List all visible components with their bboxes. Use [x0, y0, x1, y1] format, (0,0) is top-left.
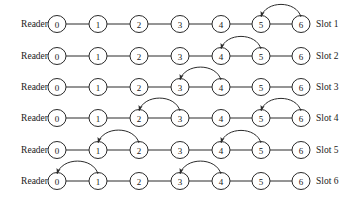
node-2[interactable]: 2: [130, 48, 148, 65]
node-label: 0: [55, 52, 60, 62]
node-1[interactable]: 1: [89, 142, 107, 159]
node-2[interactable]: 2: [130, 173, 148, 190]
node-label: 1: [96, 114, 101, 124]
reader-label: Reader: [21, 82, 49, 92]
node-0[interactable]: 0: [48, 173, 66, 190]
node-1[interactable]: 1: [89, 16, 107, 33]
node-0[interactable]: 0: [48, 16, 66, 33]
node-5[interactable]: 5: [252, 173, 270, 190]
slot-label: Slot 2: [316, 51, 339, 61]
backward-arc: [55, 161, 98, 174]
reader-label: Reader: [21, 19, 49, 29]
node-1[interactable]: 1: [89, 79, 107, 96]
slot-row: 0123456ReaderSlot 5: [21, 130, 339, 158]
node-3[interactable]: 3: [171, 48, 189, 65]
node-5[interactable]: 5: [252, 79, 270, 96]
node-3[interactable]: 3: [171, 142, 189, 159]
arc-path: [98, 130, 139, 143]
node-5[interactable]: 5: [252, 110, 270, 127]
node-0[interactable]: 0: [48, 110, 66, 127]
node-4[interactable]: 4: [212, 79, 230, 96]
node-3[interactable]: 3: [171, 173, 189, 190]
node-5[interactable]: 5: [252, 142, 270, 159]
node-5[interactable]: 5: [252, 16, 270, 33]
node-1[interactable]: 1: [89, 48, 107, 65]
node-0[interactable]: 0: [48, 79, 66, 96]
backward-arc: [178, 67, 221, 80]
node-label: 6: [299, 52, 304, 62]
node-label: 5: [259, 114, 264, 124]
node-label: 3: [178, 146, 183, 156]
node-label: 4: [219, 114, 224, 124]
node-label: 6: [299, 83, 304, 93]
slot-row: 0123456ReaderSlot 1: [21, 4, 339, 32]
node-label: 4: [219, 83, 224, 93]
node-4[interactable]: 4: [212, 110, 230, 127]
node-label: 0: [55, 20, 60, 30]
node-0[interactable]: 0: [48, 48, 66, 65]
node-label: 4: [219, 20, 224, 30]
backward-arc: [96, 130, 139, 143]
node-6[interactable]: 6: [292, 16, 310, 33]
slot-row: 0123456ReaderSlot 3: [21, 67, 339, 95]
node-label: 2: [137, 52, 142, 62]
arc-path: [139, 98, 180, 111]
slot-row: 0123456ReaderSlot 2: [21, 36, 339, 64]
node-label: 5: [259, 20, 264, 30]
node-4[interactable]: 4: [212, 16, 230, 33]
node-6[interactable]: 6: [292, 142, 310, 159]
node-label: 6: [299, 114, 304, 124]
node-label: 6: [299, 146, 304, 156]
node-2[interactable]: 2: [130, 79, 148, 96]
slot-label: Slot 1: [316, 19, 339, 29]
node-label: 4: [219, 52, 224, 62]
node-label: 6: [299, 177, 304, 187]
node-label: 2: [137, 114, 142, 124]
backward-arc: [259, 4, 301, 17]
node-2[interactable]: 2: [130, 142, 148, 159]
node-label: 0: [55, 146, 60, 156]
backward-arc: [259, 98, 301, 111]
node-label: 1: [96, 52, 101, 62]
node-label: 4: [219, 146, 224, 156]
node-3[interactable]: 3: [171, 16, 189, 33]
node-4[interactable]: 4: [212, 173, 230, 190]
node-6[interactable]: 6: [292, 173, 310, 190]
node-label: 5: [259, 52, 264, 62]
slot-diagram-container: 0123456ReaderSlot 10123456ReaderSlot 201…: [0, 0, 354, 209]
node-2[interactable]: 2: [130, 110, 148, 127]
node-label: 4: [219, 177, 224, 187]
slot-label: Slot 4: [316, 113, 339, 123]
reader-label: Reader: [21, 113, 49, 123]
node-label: 3: [178, 20, 183, 30]
node-label: 2: [137, 146, 142, 156]
arc-path: [221, 36, 261, 49]
arc-path: [57, 161, 98, 174]
backward-arc: [137, 98, 180, 111]
node-3[interactable]: 3: [171, 79, 189, 96]
node-1[interactable]: 1: [89, 173, 107, 190]
node-2[interactable]: 2: [130, 16, 148, 33]
node-3[interactable]: 3: [171, 110, 189, 127]
node-6[interactable]: 6: [292, 79, 310, 96]
node-label: 6: [299, 20, 304, 30]
node-4[interactable]: 4: [212, 142, 230, 159]
slot-row: 0123456ReaderSlot 4: [21, 98, 339, 126]
node-5[interactable]: 5: [252, 48, 270, 65]
node-label: 3: [178, 52, 183, 62]
node-6[interactable]: 6: [292, 48, 310, 65]
node-1[interactable]: 1: [89, 110, 107, 127]
node-label: 2: [137, 20, 142, 30]
reader-label: Reader: [21, 145, 49, 155]
arc-path: [180, 161, 221, 174]
node-label: 3: [178, 177, 183, 187]
node-4[interactable]: 4: [212, 48, 230, 65]
node-label: 5: [259, 146, 264, 156]
arc-path: [261, 98, 301, 111]
node-0[interactable]: 0: [48, 142, 66, 159]
reader-label: Reader: [21, 51, 49, 61]
node-6[interactable]: 6: [292, 110, 310, 127]
slot-label: Slot 6: [316, 176, 339, 186]
slot-label: Slot 5: [316, 145, 339, 155]
backward-arc: [178, 161, 221, 174]
